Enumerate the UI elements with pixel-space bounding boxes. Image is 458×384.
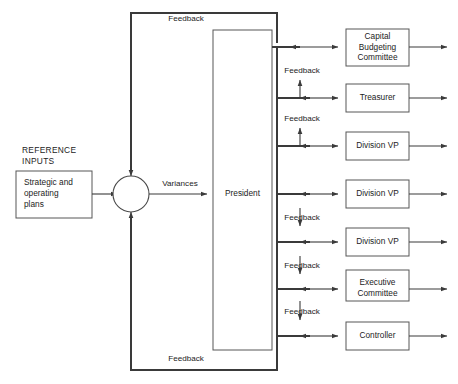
block-diagram: Feedback Feedback REFERENCE INPUTS Strat… xyxy=(0,0,458,384)
variances-label: Variances xyxy=(162,179,197,188)
reference-inputs-caption-line1: REFERENCE xyxy=(22,145,76,155)
unit-label-executive-committee-line2: Committee xyxy=(357,288,397,298)
reference-inputs-text-line2: operating xyxy=(24,188,59,198)
row-controller: Feedback Controller xyxy=(277,301,447,350)
unit-label-capital-budgeting-committee-line2: Budgeting xyxy=(359,42,397,52)
feedback-label-4: Feedback xyxy=(284,261,320,270)
row-division-vp-1: Feedback Division VP xyxy=(277,114,447,160)
unit-label-treasurer-line1: Treasurer xyxy=(360,92,396,102)
reference-inputs-text-line1: Strategic and xyxy=(24,177,73,187)
feedback-label-1: Feedback xyxy=(284,66,320,75)
row-executive-committee: Feedback Executive Committee xyxy=(277,256,447,301)
feedback-label-5: Feedback xyxy=(284,307,320,316)
president-label: President xyxy=(225,188,261,198)
unit-label-controller-line1: Controller xyxy=(360,330,396,340)
feedback-label-top: Feedback xyxy=(168,14,204,23)
row-capital-budgeting-committee: Capital Budgeting Committee xyxy=(272,29,447,66)
row-treasurer: Feedback Treasurer xyxy=(277,66,447,112)
unit-label-capital-budgeting-committee-line1: Capital xyxy=(365,31,391,41)
unit-label-division-vp-1-line1: Division VP xyxy=(356,140,399,150)
feedback-label-3: Feedback xyxy=(284,213,320,222)
unit-label-executive-committee-line1: Executive xyxy=(360,277,396,287)
feedback-label-bottom: Feedback xyxy=(168,354,204,363)
row-division-vp-2: Division VP xyxy=(277,180,447,208)
reference-inputs-caption-line2: INPUTS xyxy=(22,156,55,166)
unit-label-capital-budgeting-committee-line3: Committee xyxy=(357,52,397,62)
reference-inputs-text-line3: plans xyxy=(24,199,44,209)
diagram-canvas: Feedback Feedback REFERENCE INPUTS Strat… xyxy=(0,0,458,384)
comparator-circle xyxy=(113,176,149,212)
row-division-vp-3: Feedback Division VP xyxy=(277,208,447,256)
unit-label-division-vp-2-line1: Division VP xyxy=(356,188,399,198)
feedback-label-2: Feedback xyxy=(284,114,320,123)
unit-label-division-vp-3-line1: Division VP xyxy=(356,236,399,246)
